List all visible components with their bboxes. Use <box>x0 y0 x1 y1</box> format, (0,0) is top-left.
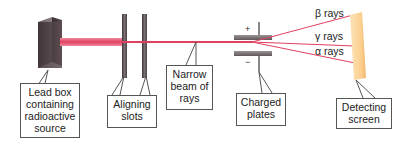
callout-text: rays <box>170 92 209 104</box>
alpha-rays-label: α rays <box>315 45 344 57</box>
wide-beam <box>60 38 124 46</box>
callout-text: plates <box>240 108 282 120</box>
negative-sign: − <box>245 57 250 67</box>
callout-charged-plates: Charged plates <box>236 93 286 126</box>
aligning-slot-1 <box>122 14 127 78</box>
callout-text: containing <box>24 98 76 110</box>
callout-aligning-slots: Aligning slots <box>107 95 157 128</box>
callout-text: radioactive <box>24 110 76 122</box>
callout-detecting-screen: Detecting screen <box>336 98 392 129</box>
callout-text: slots <box>111 110 153 122</box>
callout-text: Narrow <box>170 68 209 80</box>
callout-text: Detecting <box>340 101 388 113</box>
callout-text: source <box>24 122 76 134</box>
callout-text: Aligning <box>111 98 153 110</box>
callout-text: screen <box>340 113 388 125</box>
detecting-screen <box>350 12 366 80</box>
callout-narrow-beam: Narrow beam of rays <box>166 65 213 110</box>
callout-lead-box: Lead box containing radioactive source <box>20 83 80 138</box>
callout-text: Charged <box>240 96 282 108</box>
beta-rays-label: β rays <box>315 7 344 19</box>
callout-text: Lead box <box>24 86 76 98</box>
lead-box <box>38 17 62 68</box>
charged-plates <box>234 22 272 72</box>
callout-text: beam of <box>170 80 209 92</box>
gamma-rays-label: γ rays <box>315 30 343 42</box>
positive-sign: + <box>245 24 250 34</box>
aligning-slot-2 <box>142 14 147 78</box>
